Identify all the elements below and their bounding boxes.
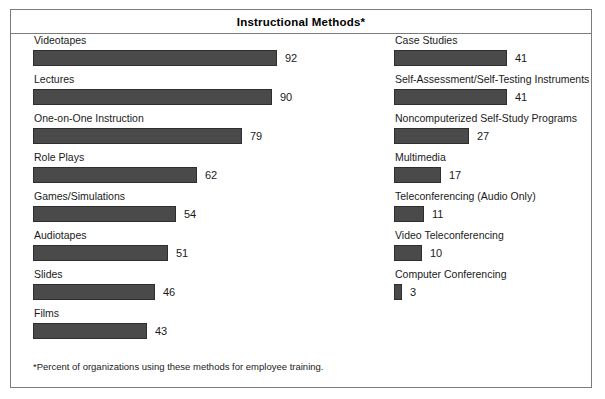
bar-row: Noncomputerized Self-Study Programs27 bbox=[394, 112, 594, 151]
bar bbox=[394, 206, 424, 222]
bar-category-label: Slides bbox=[33, 268, 363, 281]
bar-row: One-on-One Instruction79 bbox=[33, 112, 363, 151]
bar-category-label: Self-Assessment/Self-Testing Instruments bbox=[394, 73, 594, 86]
bar-value-label: 11 bbox=[432, 208, 443, 220]
bar bbox=[33, 323, 147, 339]
bar-line: 11 bbox=[394, 206, 594, 222]
bar-category-label: Audiotapes bbox=[33, 229, 363, 242]
bar bbox=[33, 167, 197, 183]
bar-value-label: 79 bbox=[250, 130, 262, 142]
bar bbox=[33, 50, 277, 66]
bar-category-label: Video Teleconferencing bbox=[394, 229, 594, 242]
bar-line: 46 bbox=[33, 284, 363, 300]
bar bbox=[33, 206, 176, 222]
chart-title-bar: Instructional Methods* bbox=[11, 10, 591, 34]
bar-value-label: 43 bbox=[155, 325, 167, 337]
bar bbox=[33, 284, 155, 300]
bar-value-label: 62 bbox=[205, 169, 217, 181]
bar bbox=[394, 128, 469, 144]
page-title: Instructional Methods* bbox=[237, 16, 365, 28]
bar-value-label: 10 bbox=[430, 247, 442, 259]
bar-line: 41 bbox=[394, 89, 594, 105]
bar-row: Lectures90 bbox=[33, 73, 363, 112]
bar-line: 54 bbox=[33, 206, 363, 222]
bar-category-label: One-on-One Instruction bbox=[33, 112, 363, 125]
bar-value-label: 92 bbox=[285, 52, 297, 64]
bar-value-label: 41 bbox=[515, 91, 527, 103]
bar-row: Games/Simulations54 bbox=[33, 190, 363, 229]
plot-area: Videotapes92Lectures90One-on-One Instruc… bbox=[11, 34, 591, 388]
bar-line: 17 bbox=[394, 167, 594, 183]
bar-category-label: Teleconferencing (Audio Only) bbox=[394, 190, 594, 203]
bar-category-label: Videotapes bbox=[33, 34, 363, 47]
bar-row: Films43 bbox=[33, 307, 363, 346]
bar-row: Video Teleconferencing10 bbox=[394, 229, 594, 268]
bar bbox=[394, 89, 507, 105]
bar-category-label: Games/Simulations bbox=[33, 190, 363, 203]
bar-category-label: Role Plays bbox=[33, 151, 363, 164]
chart-footnote: *Percent of organizations using these me… bbox=[33, 361, 323, 372]
bar-value-label: 51 bbox=[176, 247, 188, 259]
bar-category-label: Case Studies bbox=[394, 34, 594, 47]
bar-value-label: 17 bbox=[449, 169, 461, 181]
bar-value-label: 41 bbox=[515, 52, 527, 64]
bar bbox=[33, 245, 168, 261]
bar-row: Case Studies41 bbox=[394, 34, 594, 73]
bar bbox=[394, 50, 507, 66]
bar-line: 10 bbox=[394, 245, 594, 261]
bar-category-label: Computer Conferencing bbox=[394, 268, 594, 281]
bar-row: Computer Conferencing3 bbox=[394, 268, 594, 307]
bar bbox=[33, 128, 242, 144]
bar-line: 3 bbox=[394, 284, 594, 300]
bar-row: Teleconferencing (Audio Only)11 bbox=[394, 190, 594, 229]
bar-column-left: Videotapes92Lectures90One-on-One Instruc… bbox=[33, 34, 363, 346]
bar-category-label: Multimedia bbox=[394, 151, 594, 164]
bar bbox=[394, 245, 422, 261]
bar bbox=[33, 89, 272, 105]
bar-value-label: 54 bbox=[184, 208, 196, 220]
bar-row: Slides46 bbox=[33, 268, 363, 307]
bar-line: 90 bbox=[33, 89, 363, 105]
bar-line: 43 bbox=[33, 323, 363, 339]
bar-line: 27 bbox=[394, 128, 594, 144]
bar-value-label: 46 bbox=[163, 286, 175, 298]
bar-row: Multimedia17 bbox=[394, 151, 594, 190]
bar-value-label: 27 bbox=[477, 130, 489, 142]
bar-row: Audiotapes51 bbox=[33, 229, 363, 268]
chart-frame: Instructional Methods* Videotapes92Lectu… bbox=[10, 9, 592, 388]
bar bbox=[394, 284, 402, 300]
bar-value-label: 90 bbox=[280, 91, 292, 103]
bar-category-label: Films bbox=[33, 307, 363, 320]
bar-row: Videotapes92 bbox=[33, 34, 363, 73]
bar-line: 41 bbox=[394, 50, 594, 66]
bar-category-label: Noncomputerized Self-Study Programs bbox=[394, 112, 594, 125]
bar-value-label: 3 bbox=[410, 286, 416, 298]
bar-category-label: Lectures bbox=[33, 73, 363, 86]
bar-line: 62 bbox=[33, 167, 363, 183]
bar-row: Role Plays62 bbox=[33, 151, 363, 190]
bar-line: 79 bbox=[33, 128, 363, 144]
bar-line: 92 bbox=[33, 50, 363, 66]
bar-row: Self-Assessment/Self-Testing Instruments… bbox=[394, 73, 594, 112]
bar bbox=[394, 167, 441, 183]
bar-line: 51 bbox=[33, 245, 363, 261]
bar-column-right: Case Studies41Self-Assessment/Self-Testi… bbox=[394, 34, 594, 307]
